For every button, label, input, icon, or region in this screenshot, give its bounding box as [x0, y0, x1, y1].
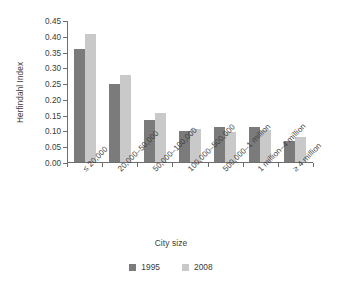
y-tick-label: 0.10 [45, 127, 61, 136]
y-axis-title-text: Herfindahl Index [17, 61, 26, 122]
y-tick-label: 0.25 [45, 80, 61, 89]
y-tick-label: 0.20 [45, 95, 61, 104]
bar-1995-1 [109, 84, 120, 162]
legend-label: 1995 [141, 262, 160, 272]
x-tick [313, 163, 314, 167]
y-tick-label: 0.05 [45, 143, 61, 152]
y-tick-label: 0.15 [45, 111, 61, 120]
x-axis-category-labels: ≤ 20,00020,000–50,00050,000–100,000100,0… [67, 167, 313, 233]
y-tick-label: 0.35 [45, 48, 61, 57]
y-axis-title: Herfindahl Index [14, 21, 28, 163]
y-tick-label: 0.45 [45, 17, 61, 26]
legend-swatch-2008 [182, 264, 189, 271]
bar-group [67, 21, 102, 162]
plot-area: 0.000.050.100.150.200.250.300.350.400.45 [67, 21, 313, 163]
bar-groups [67, 21, 313, 162]
x-axis-title-text: City size [155, 238, 188, 248]
bar-2008-0 [85, 34, 96, 162]
legend-label: 2008 [194, 262, 213, 272]
chart-legend: 19952008 [0, 262, 342, 272]
herfindahl-index-bar-chart: Herfindahl Index 0.000.050.100.150.200.2… [0, 0, 342, 290]
legend-swatch-1995 [129, 264, 136, 271]
y-tick-label: 0.40 [45, 32, 61, 41]
legend-item-1995: 1995 [129, 262, 160, 272]
bar-group [102, 21, 137, 162]
y-tick-label: 0.30 [45, 64, 61, 73]
legend-item-2008: 2008 [182, 262, 213, 272]
y-tick-label: 0.00 [45, 159, 61, 168]
x-axis-title: City size [0, 238, 342, 248]
bar-2008-1 [120, 75, 131, 162]
bar-1995-0 [74, 49, 85, 162]
